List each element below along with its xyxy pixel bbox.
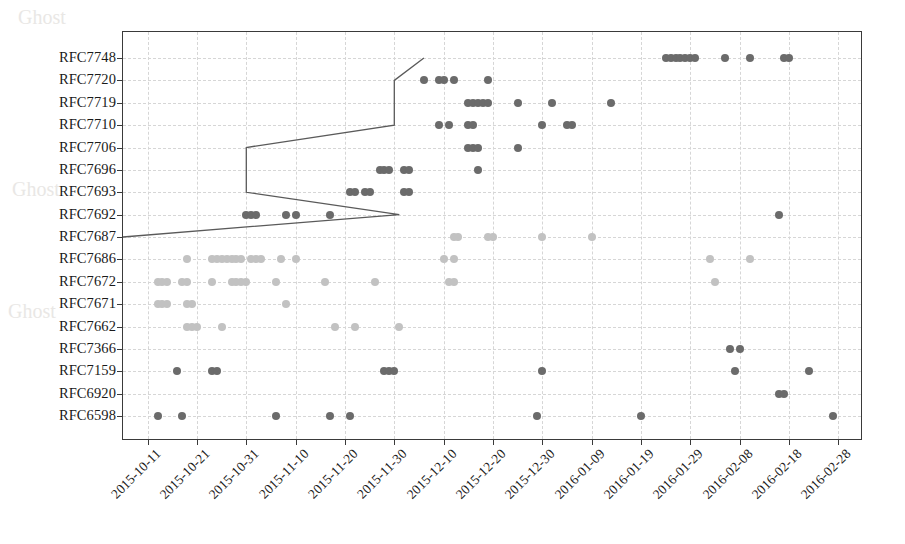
data-point — [746, 54, 754, 62]
y-tick-label-rfc7687: RFC7687 — [59, 228, 116, 245]
data-point — [484, 99, 492, 107]
data-point — [272, 278, 280, 286]
gridline-horizontal — [123, 394, 861, 395]
y-tick-mark — [117, 192, 123, 193]
data-point — [272, 412, 280, 420]
data-point — [163, 300, 171, 308]
data-point — [514, 144, 522, 152]
y-tick-mark — [117, 394, 123, 395]
y-tick-label-rfc6598: RFC6598 — [59, 407, 116, 424]
data-point — [292, 211, 300, 219]
data-point — [193, 323, 201, 331]
data-point — [292, 255, 300, 263]
data-point — [691, 54, 699, 62]
data-point — [435, 121, 443, 129]
data-point — [420, 76, 428, 84]
data-point — [282, 300, 290, 308]
x-tick-mark — [444, 439, 445, 445]
data-point — [321, 278, 329, 286]
y-tick-label-rfc7662: RFC7662 — [59, 317, 116, 334]
y-tick-mark — [117, 349, 123, 350]
data-point — [445, 121, 453, 129]
x-tick-mark — [148, 439, 149, 445]
gridline-horizontal — [123, 148, 861, 149]
data-point — [163, 278, 171, 286]
data-point — [277, 255, 285, 263]
data-point — [785, 54, 793, 62]
data-point — [178, 412, 186, 420]
gridline-horizontal — [123, 304, 861, 305]
y-tick-mark — [117, 304, 123, 305]
data-point — [538, 233, 546, 241]
data-point — [805, 367, 813, 375]
data-point — [514, 99, 522, 107]
y-tick-label-rfc7671: RFC7671 — [59, 295, 116, 312]
gridline-vertical — [444, 32, 445, 439]
y-tick-label-rfc7159: RFC7159 — [59, 362, 116, 379]
data-point — [326, 211, 334, 219]
data-point — [538, 367, 546, 375]
y-tick-label-rfc7693: RFC7693 — [59, 183, 116, 200]
y-tick-label-rfc7706: RFC7706 — [59, 138, 116, 155]
data-point — [474, 166, 482, 174]
data-point — [484, 76, 492, 84]
data-point — [385, 166, 393, 174]
x-tick-mark — [296, 439, 297, 445]
y-tick-mark — [117, 80, 123, 81]
gridline-vertical — [197, 32, 198, 439]
data-point — [390, 367, 398, 375]
gridline-horizontal — [123, 215, 861, 216]
data-point — [346, 412, 354, 420]
x-tick-mark — [838, 439, 839, 445]
y-tick-mark — [117, 125, 123, 126]
gridline-horizontal — [123, 371, 861, 372]
data-point — [440, 76, 448, 84]
data-point — [154, 412, 162, 420]
gridline-horizontal — [123, 170, 861, 171]
y-tick-mark — [117, 215, 123, 216]
data-point — [405, 188, 413, 196]
data-point — [538, 121, 546, 129]
data-point — [173, 367, 181, 375]
x-tick-mark — [197, 439, 198, 445]
data-point — [489, 233, 497, 241]
data-point — [395, 323, 403, 331]
data-point — [706, 255, 714, 263]
data-point — [331, 323, 339, 331]
data-point — [371, 278, 379, 286]
data-point — [637, 412, 645, 420]
gridline-vertical — [345, 32, 346, 439]
x-tick-mark — [493, 439, 494, 445]
y-tick-label-rfc6920: RFC6920 — [59, 384, 116, 401]
x-tick-mark — [690, 439, 691, 445]
gridline-vertical — [838, 32, 839, 439]
y-tick-mark — [117, 103, 123, 104]
x-tick-mark — [345, 439, 346, 445]
data-point — [351, 323, 359, 331]
data-point — [366, 188, 374, 196]
x-tick-mark — [592, 439, 593, 445]
data-point — [218, 323, 226, 331]
data-point — [829, 412, 837, 420]
y-tick-mark — [117, 148, 123, 149]
data-point — [726, 345, 734, 353]
y-tick-mark — [117, 416, 123, 417]
data-point — [533, 412, 541, 420]
data-point — [183, 278, 191, 286]
data-point — [736, 345, 744, 353]
x-tick-mark — [394, 439, 395, 445]
data-point — [351, 188, 359, 196]
x-tick-mark — [789, 439, 790, 445]
y-tick-label-rfc7720: RFC7720 — [59, 71, 116, 88]
data-point — [326, 412, 334, 420]
chart-container: Ghost Ghost Ghost RFC7748RFC7720RFC7719R… — [0, 0, 905, 544]
y-tick-mark — [117, 170, 123, 171]
data-point — [721, 54, 729, 62]
x-tick-mark — [641, 439, 642, 445]
gridline-horizontal — [123, 125, 861, 126]
data-point — [450, 278, 458, 286]
data-point — [183, 255, 191, 263]
data-point — [780, 390, 788, 398]
y-tick-label-rfc7692: RFC7692 — [59, 205, 116, 222]
gridline-vertical — [148, 32, 149, 439]
